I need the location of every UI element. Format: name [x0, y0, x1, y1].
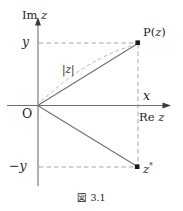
- point-p-label: P(z): [143, 27, 166, 39]
- modulus-label-text: |z|: [62, 63, 75, 75]
- real-axis-arrowhead: [163, 103, 172, 109]
- imaginary-axis-label-text: Im z: [22, 8, 47, 22]
- complex-plane-figure: Im z Re z x y −y O P(z) z* |z| 図 3.1: [0, 0, 183, 211]
- imaginary-axis-label: Im z: [22, 10, 47, 22]
- point-marker-z: [135, 40, 140, 45]
- point-conjugate-label: z*: [143, 162, 153, 175]
- point-marker-z-conjugate: [135, 164, 140, 169]
- origin-label: O: [22, 108, 32, 121]
- modulus-label: |z|: [62, 64, 75, 75]
- ray-origin-to-z: [39, 44, 138, 105]
- point-conjugate-label-superscript: *: [149, 161, 153, 170]
- negative-y-tick-label: −y: [9, 160, 27, 173]
- real-axis-label-text: Re z: [139, 110, 164, 124]
- x-tick-label: x: [143, 90, 150, 103]
- figure-caption: 図 3.1: [0, 190, 183, 204]
- y-tick-label: y: [22, 36, 29, 49]
- point-p-label-text: P(z): [143, 25, 166, 39]
- ray-origin-to-z-conjugate: [39, 106, 137, 166]
- real-axis-label: Re z: [139, 112, 164, 124]
